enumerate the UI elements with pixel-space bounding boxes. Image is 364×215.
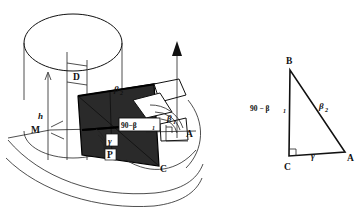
label-angle-beta1-base: β bbox=[166, 113, 172, 123]
geometry-figure-svg: D h M bbox=[0, 0, 364, 215]
label-boxed-90-minus-beta1: 90−β 1 bbox=[119, 118, 160, 131]
right-triangle-group: B C A 90 − β 1 β 2 γ bbox=[250, 56, 354, 172]
label-side-BA: β 2 bbox=[318, 101, 328, 113]
label-angle-gamma-right: γ bbox=[311, 151, 315, 161]
height-arrow bbox=[45, 72, 51, 160]
label-side-BC: 90 − β 1 bbox=[250, 104, 286, 114]
label-angle-beta1-sub: 1 bbox=[173, 119, 176, 125]
label-point-P-text: P bbox=[107, 150, 113, 160]
label-angle-gamma-text: γ bbox=[108, 136, 112, 146]
label-side-BC-text: 90 − β bbox=[250, 104, 270, 113]
left-diagram-group: D h M bbox=[6, 14, 203, 207]
cylinder-top-ellipse bbox=[24, 14, 122, 71]
figure-root: D h M bbox=[0, 0, 364, 215]
label-angle-beta2-base: β bbox=[113, 84, 119, 94]
label-point-A-left: A bbox=[186, 129, 193, 139]
label-boxed-text: 90−β bbox=[121, 121, 137, 130]
label-side-BA-base: β bbox=[318, 101, 324, 111]
label-point-D: D bbox=[73, 72, 80, 82]
label-vertex-C: C bbox=[284, 162, 291, 172]
label-side-BA-sub: 2 bbox=[324, 107, 328, 113]
label-side-BC-sub: 1 bbox=[283, 108, 286, 114]
label-point-P: P bbox=[105, 149, 116, 160]
label-boxed-sub: 1 bbox=[152, 125, 155, 131]
triangle-outline bbox=[289, 70, 345, 156]
label-point-C-left: C bbox=[160, 164, 167, 174]
label-vertex-A: A bbox=[347, 153, 354, 163]
label-vertex-B: B bbox=[286, 56, 293, 66]
label-angle-beta2-sub: 2 bbox=[119, 90, 123, 96]
label-angle-gamma: γ bbox=[106, 134, 118, 146]
label-point-M: M bbox=[31, 125, 40, 135]
label-height-h: h bbox=[38, 111, 43, 121]
